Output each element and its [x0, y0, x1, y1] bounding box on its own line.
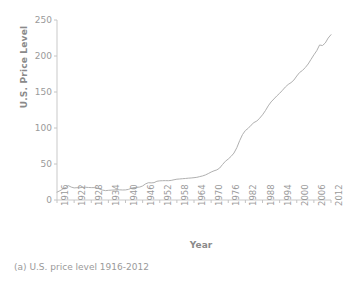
x-axis-tick-label: 1982	[249, 184, 258, 206]
chart-figure: U.S. Price Level 050100150200250 1916192…	[0, 0, 348, 286]
x-axis-tick-label: 2006	[318, 184, 327, 206]
x-axis-tick-label: 2000	[301, 184, 310, 206]
x-axis-tick-label: 1964	[198, 184, 207, 206]
x-axis-tick-label: 1988	[267, 184, 276, 206]
x-axis-tick-label: 1946	[147, 184, 156, 206]
x-axis-tick-label: 1952	[164, 184, 173, 206]
x-axis-tick-label: 1922	[78, 184, 87, 206]
x-axis-tick-label: 1916	[61, 184, 70, 206]
figure-caption: (a) U.S. price level 1916-2012	[14, 262, 149, 272]
x-axis-tick-label: 1970	[215, 184, 224, 206]
x-axis-label: Year	[170, 240, 232, 250]
x-axis-tick-label: 1934	[112, 184, 121, 206]
x-axis-tick-label: 1928	[95, 184, 104, 206]
x-axis-tick-label: 1994	[284, 184, 293, 206]
x-axis-tick-label: 1958	[181, 184, 190, 206]
x-axis-tick-label: 1976	[232, 184, 241, 206]
x-axis-tick-label: 1940	[130, 184, 139, 206]
x-axis-tick-label: 2012	[335, 184, 344, 206]
